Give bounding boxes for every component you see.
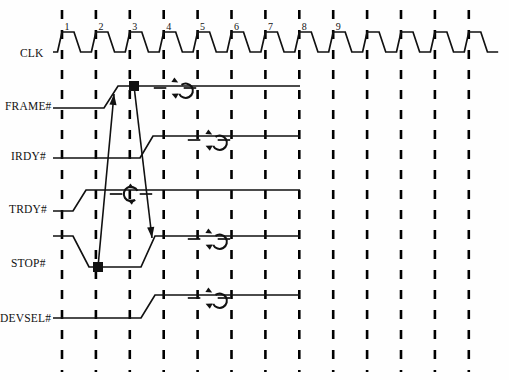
- timing-diagram-canvas: CLKFRAME#IRDY#TRDY#STOP#DEVSEL# 12345678…: [0, 0, 509, 380]
- causal-arrows-layer: [98, 86, 154, 267]
- signal-waveforms-layer: [53, 32, 498, 318]
- rotation-arrowhead-bottom: [128, 199, 135, 204]
- signal-label-trdy: TRDY#: [9, 203, 47, 215]
- cycle-number-label: 2: [98, 21, 103, 32]
- causal-arrow-head-frame-to-stop: [147, 227, 154, 238]
- cycle-number-label: 9: [336, 21, 341, 32]
- signal-label-devsel: DEVSEL#: [0, 312, 51, 324]
- rotation-arrowhead-top: [205, 287, 212, 292]
- signal-waveform-trdy: [53, 190, 300, 211]
- signal-waveform-irdy: [53, 136, 300, 158]
- cycle-number-label: 8: [302, 21, 307, 32]
- rotation-arrowhead-bottom: [206, 145, 213, 150]
- signal-label-irdy: IRDY#: [11, 150, 46, 162]
- rotation-arrowhead-top: [127, 183, 134, 188]
- rotate-cw-icon: [188, 287, 230, 308]
- signal-label-stop: STOP#: [11, 257, 46, 269]
- causal-arrow-line-stop-to-frame: [98, 94, 114, 267]
- rotation-arrowhead-top: [205, 129, 212, 134]
- rotate-cw-icon: [154, 77, 196, 98]
- cycle-number-label: 4: [166, 21, 171, 32]
- square-marker-frame: [129, 81, 139, 91]
- cycle-number-label: 3: [132, 21, 137, 32]
- rotation-arrowhead-bottom: [206, 303, 213, 308]
- rotation-arc: [213, 136, 227, 150]
- timing-waveform-svg: [0, 0, 509, 380]
- square-marker-stop: [93, 262, 103, 272]
- rotate-cw-icon: [188, 129, 230, 150]
- rotation-annotations-layer: [110, 77, 230, 308]
- rotation-arrowhead-top: [205, 228, 212, 233]
- cycle-number-label: 7: [268, 21, 273, 32]
- causal-arrow-head-stop-to-frame: [109, 94, 116, 105]
- signal-waveform-clk: [53, 32, 498, 52]
- cycle-number-label: 5: [200, 21, 205, 32]
- causal-arrow-line-frame-to-stop: [134, 86, 152, 238]
- rotate-cw-icon: [188, 228, 230, 249]
- cycle-number-label: 6: [234, 21, 239, 32]
- rotation-arrowhead-bottom: [206, 244, 213, 249]
- rotation-arrowhead-bottom: [172, 93, 179, 98]
- rotation-arrowhead-top: [171, 77, 178, 82]
- signal-label-frame: FRAME#: [5, 100, 52, 112]
- signal-waveform-devsel: [53, 295, 300, 318]
- cycle-number-label: 1: [65, 21, 70, 32]
- signal-label-clk: CLK: [20, 47, 44, 59]
- signal-waveform-stop: [53, 236, 300, 267]
